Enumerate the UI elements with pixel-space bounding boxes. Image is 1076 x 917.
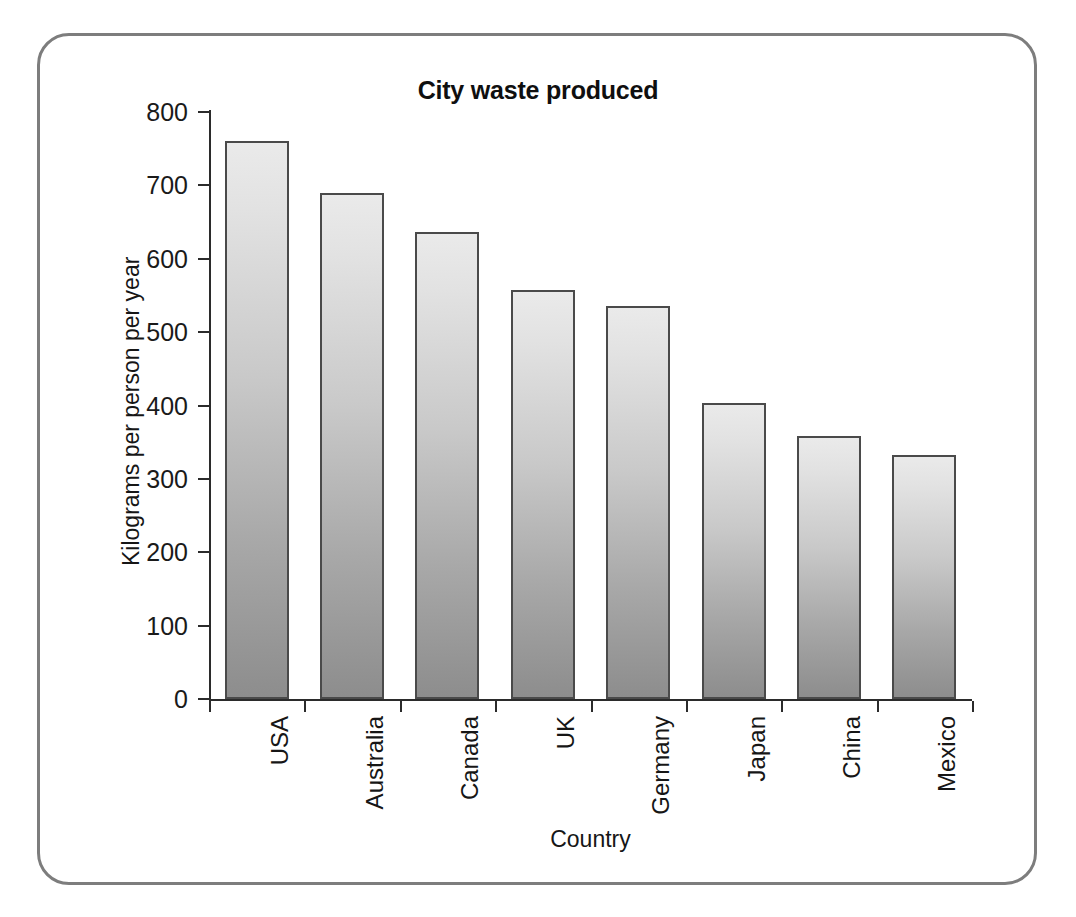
- y-tick-mark: [198, 698, 209, 700]
- y-axis-title: Kilograms per person per year: [120, 257, 143, 566]
- x-tick-label: UK: [554, 716, 578, 749]
- x-tick-mark: [304, 701, 306, 712]
- x-axis-title: Country: [209, 826, 972, 853]
- y-tick-label: 0: [118, 687, 188, 712]
- x-tick-mark: [686, 701, 688, 712]
- y-tick-label: 800: [118, 100, 188, 125]
- y-tick-mark: [198, 184, 209, 186]
- bar: [892, 455, 956, 699]
- y-tick-label: 100: [118, 613, 188, 638]
- bar: [606, 306, 670, 699]
- bar: [320, 193, 384, 699]
- x-tick-mark: [591, 701, 593, 712]
- y-tick-mark: [198, 551, 209, 553]
- bar: [702, 403, 766, 699]
- bar: [797, 436, 861, 699]
- x-tick-mark: [495, 701, 497, 712]
- x-tick-label: Australia: [363, 716, 387, 809]
- y-tick-mark: [198, 478, 209, 480]
- x-tick-mark: [209, 701, 211, 712]
- x-tick-mark: [400, 701, 402, 712]
- y-tick-mark: [198, 331, 209, 333]
- x-tick-label: China: [840, 716, 864, 779]
- y-tick-mark: [198, 405, 209, 407]
- x-tick-mark: [781, 701, 783, 712]
- x-tick-label: Mexico: [935, 716, 959, 792]
- y-tick-label: 700: [118, 173, 188, 198]
- bar: [415, 232, 479, 699]
- y-tick-mark: [198, 258, 209, 260]
- bar: [225, 141, 289, 699]
- x-tick-mark: [972, 701, 974, 712]
- y-tick-mark: [198, 111, 209, 113]
- bar-chart: City waste produced 80070060050040030020…: [0, 0, 1076, 917]
- y-tick-mark: [198, 625, 209, 627]
- x-tick-mark: [877, 701, 879, 712]
- bar: [511, 290, 575, 699]
- x-tick-label: Japan: [745, 716, 769, 781]
- y-axis-line: [209, 110, 211, 701]
- x-tick-label: Germany: [649, 716, 673, 815]
- x-tick-label: USA: [268, 716, 292, 765]
- x-tick-label: Canada: [458, 716, 482, 800]
